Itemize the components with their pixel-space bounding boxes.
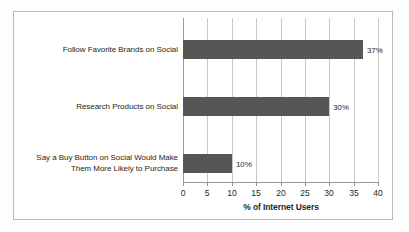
category-label-3-line2: Them More Likely to Purchase (8, 163, 178, 174)
bar-row-2: 30% (183, 97, 378, 116)
category-label-3-line1: Say a Buy Button on Social Would Make (8, 152, 178, 163)
bar-follow-favorite-brands[interactable] (183, 40, 363, 59)
tickmark-25 (305, 182, 306, 186)
tickmark-20 (281, 182, 282, 186)
tickmark-35 (354, 182, 355, 186)
x-axis-title: % of Internet Users (183, 202, 379, 212)
category-label-3: Say a Buy Button on Social Would Make Th… (8, 152, 178, 174)
category-label-1: Follow Favorite Brands on Social (8, 44, 178, 55)
gridline-40 (378, 18, 379, 182)
tick-label-10: 10 (220, 188, 244, 198)
tick-label-25: 25 (293, 188, 317, 198)
category-label-2-line1: Research Products on Social (8, 101, 178, 112)
category-label-1-line1: Follow Favorite Brands on Social (8, 44, 178, 55)
bar-value-3: 10% (236, 159, 252, 168)
tick-label-35: 35 (342, 188, 366, 198)
bar-buy-button[interactable] (183, 154, 232, 173)
bar-chart-figure: 37% 30% 10% Follow Favorite Brands on So… (0, 0, 409, 232)
bar-value-2: 30% (333, 102, 349, 111)
tick-label-15: 15 (244, 188, 268, 198)
tickmark-0 (183, 182, 184, 186)
bar-row-1: 37% (183, 40, 378, 59)
tick-label-0: 0 (171, 188, 195, 198)
plot-area: 37% 30% 10% (183, 18, 378, 182)
bar-value-1: 37% (367, 45, 383, 54)
tickmark-40 (378, 182, 379, 186)
tick-label-30: 30 (317, 188, 341, 198)
tickmark-5 (207, 182, 208, 186)
tick-label-5: 5 (195, 188, 219, 198)
bar-research-products[interactable] (183, 97, 329, 116)
bar-row-3: 10% (183, 154, 378, 173)
tickmark-30 (329, 182, 330, 186)
tick-label-20: 20 (269, 188, 293, 198)
tickmark-15 (256, 182, 257, 186)
tick-label-40: 40 (366, 188, 390, 198)
tickmark-10 (232, 182, 233, 186)
category-label-2: Research Products on Social (8, 101, 178, 112)
